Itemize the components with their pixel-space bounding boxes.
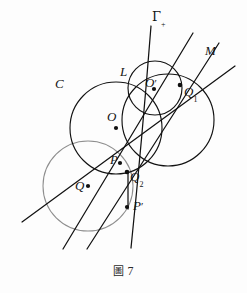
circle-gamma-large — [122, 74, 214, 166]
point-Q2 — [125, 170, 130, 175]
label-O-prime-base: O — [145, 75, 154, 90]
point-P — [118, 161, 122, 165]
point-O — [114, 126, 118, 130]
label-point-Q1: Q1 — [184, 85, 197, 102]
label-P-prime-mark: ′ — [141, 200, 143, 212]
point-Q1 — [178, 83, 183, 88]
label-gamma-subscript: + — [161, 20, 166, 29]
label-O-prime-mark: ′ — [154, 77, 156, 89]
label-point-Q2: Q2 — [130, 170, 143, 187]
label-point-L: L — [120, 65, 127, 78]
label-Q1-subscript: 1 — [193, 95, 197, 104]
figure-container: Γ+ M C L O O′ Q1 P Q2 Q P′ 圖7 — [0, 0, 247, 293]
label-line-M: M — [205, 44, 216, 57]
point-P-prime — [125, 205, 129, 209]
label-C-base: C — [55, 76, 64, 91]
label-center-Q: Q — [75, 179, 84, 192]
line-gamma-plus — [131, 26, 151, 248]
label-gamma-plus: Γ+ — [152, 10, 166, 27]
label-Q2-subscript: 2 — [139, 180, 143, 189]
label-Q1-base: Q — [184, 84, 193, 99]
label-point-O-prime: O′ — [145, 76, 157, 89]
point-Q — [86, 184, 90, 188]
label-point-P: P — [110, 153, 118, 166]
figure-caption: 圖7 — [0, 262, 247, 279]
label-gamma-base: Γ — [152, 9, 161, 24]
caption-number: 7 — [128, 264, 135, 278]
label-P-prime-base: P — [133, 198, 141, 213]
label-M-base: M — [205, 43, 216, 58]
label-Q2-base: Q — [130, 169, 139, 184]
label-Q-base: Q — [75, 178, 84, 193]
line-M — [87, 43, 219, 249]
label-L-base: L — [120, 64, 127, 79]
label-center-O: O — [107, 110, 116, 123]
label-P-base: P — [110, 152, 118, 167]
label-O-base: O — [107, 109, 116, 124]
caption-label: 圖 — [113, 265, 125, 278]
label-point-P-prime: P′ — [133, 199, 143, 212]
label-circle-C: C — [55, 77, 64, 90]
